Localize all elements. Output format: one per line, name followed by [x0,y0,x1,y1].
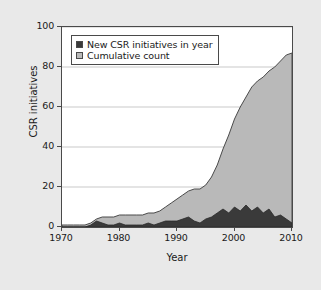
x-tick-mark [234,227,235,231]
x-axis-label: Year [61,252,293,263]
legend-swatch-cumulative [76,52,83,59]
x-axis-tick-1970: 1970 [41,232,81,243]
y-axis-tick-20: 20 [28,180,54,191]
legend-label-new-initiatives: New CSR initiatives in year [87,39,213,50]
legend-item-new-initiatives: New CSR initiatives in year [76,39,213,50]
y-axis-label: CSR initiatives [28,47,39,157]
legend-label-cumulative: Cumulative count [87,50,169,61]
x-tick-mark [291,227,292,231]
x-axis-tick-2010: 2010 [271,232,311,243]
legend-swatch-new-initiatives [76,41,83,48]
y-axis-tick-0: 0 [28,220,54,231]
y-tick-mark [57,146,61,147]
y-axis-tick-100: 100 [28,20,54,31]
x-axis-tick-1990: 1990 [156,232,196,243]
y-tick-mark [57,106,61,107]
x-tick-mark [61,227,62,231]
y-tick-mark [57,26,61,27]
chart-figure: 020406080100 19701980199020002010 CSR in… [0,0,321,290]
y-tick-mark [57,66,61,67]
y-tick-mark [57,186,61,187]
chart-legend: New CSR initiatives in year Cumulative c… [71,35,219,65]
area-cumulative-count [62,53,292,227]
x-tick-mark [119,227,120,231]
x-axis-tick-1980: 1980 [99,232,139,243]
x-axis-tick-2000: 2000 [214,232,254,243]
legend-item-cumulative: Cumulative count [76,50,213,61]
x-tick-mark [176,227,177,231]
